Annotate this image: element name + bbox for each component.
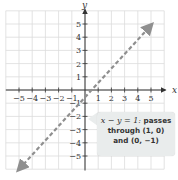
svg-text:1: 1: [96, 94, 101, 103]
svg-text:3: 3: [122, 94, 127, 103]
svg-text:−5: −5: [13, 94, 25, 103]
svg-text:1: 1: [76, 73, 81, 82]
svg-text:2: 2: [109, 94, 114, 103]
svg-text:−2: −2: [53, 94, 65, 103]
svg-text:4: 4: [76, 33, 81, 42]
callout-text-3: and (0, −1): [97, 136, 175, 146]
svg-text:2: 2: [76, 60, 81, 69]
svg-text:y: y: [81, 0, 88, 10]
svg-text:−4: −4: [26, 94, 38, 103]
svg-text:4: 4: [135, 94, 140, 103]
svg-text:−1: −1: [69, 99, 81, 108]
callout-equation: x − y = 1:: [101, 116, 141, 125]
svg-text:−4: −4: [69, 139, 81, 148]
annotation-callout: x − y = 1: passes through (1, 0) and (0,…: [97, 112, 175, 156]
svg-text:−3: −3: [69, 126, 81, 135]
svg-text:−3: −3: [40, 94, 52, 103]
svg-text:5: 5: [76, 20, 81, 29]
svg-text:x: x: [172, 85, 177, 95]
callout-text-2: through (1, 0): [97, 126, 175, 136]
svg-text:5: 5: [148, 94, 153, 103]
callout-text-1: passes: [144, 116, 172, 125]
svg-text:−5: −5: [69, 152, 81, 161]
svg-text:3: 3: [76, 46, 81, 55]
svg-text:−2: −2: [69, 112, 81, 121]
